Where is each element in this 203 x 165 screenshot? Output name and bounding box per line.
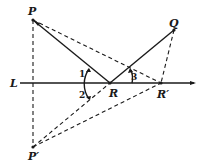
segment-p-r — [33, 20, 110, 83]
label-r: R — [108, 87, 118, 100]
segment-pprime-rprime — [33, 83, 161, 147]
segment-q-rprime — [161, 30, 174, 83]
label-q: Q — [169, 17, 179, 30]
label-rprime: R′ — [156, 88, 169, 101]
label-pprime: P′ — [27, 150, 39, 163]
segment-r-q — [110, 30, 174, 83]
reflection-diagram: P Q R R′ P′ L 1 2 3 — [0, 0, 203, 165]
segment-pprime-r — [33, 83, 110, 147]
line-l-arrowhead — [190, 81, 196, 85]
point-pprime — [31, 145, 34, 148]
label-l: L — [9, 77, 18, 90]
point-rprime — [159, 81, 162, 84]
point-r — [108, 81, 111, 84]
angle-arc-1-arrowhead — [86, 68, 91, 72]
angle-label-1: 1 — [79, 69, 85, 79]
segment-p-rprime — [33, 20, 161, 83]
angle-label-3: 3 — [131, 72, 137, 82]
label-p: P — [27, 5, 37, 18]
angle-label-2: 2 — [79, 90, 85, 100]
